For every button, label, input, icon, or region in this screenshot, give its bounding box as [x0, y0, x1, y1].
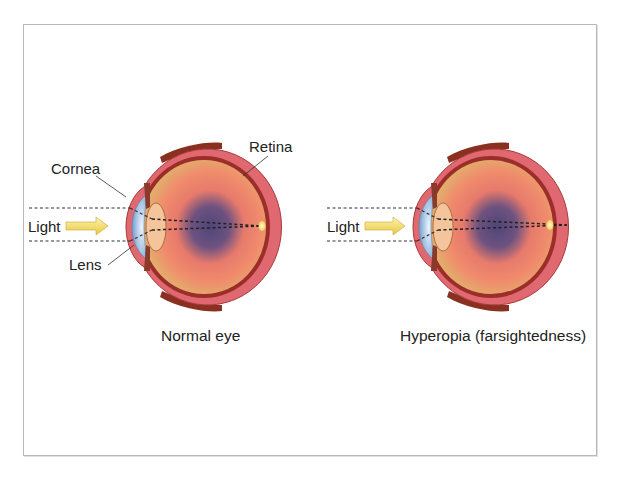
eye-diagram: Light Cornea Lens Retina Normal eye Ligh…: [0, 0, 618, 478]
label-lens: Lens: [69, 256, 102, 273]
label-cornea: Cornea: [51, 160, 101, 177]
light-arrow-icon: [365, 217, 405, 235]
label-light: Light: [28, 218, 61, 235]
focal-point-icon: [259, 221, 266, 231]
caption-hyperopia: Hyperopia (farsightedness): [400, 327, 586, 344]
lens-leader-line: [108, 245, 134, 265]
hyperopia-eye-graphic: [413, 143, 569, 312]
hyperopia-eye-diagram: Light Hyperopia (farsightedness): [327, 143, 586, 344]
normal-eye-graphic: [126, 143, 282, 312]
caption-normal-eye: Normal eye: [161, 327, 240, 344]
cornea-leader-line: [96, 176, 126, 197]
focal-point-icon: [547, 220, 554, 230]
light-arrow-icon: [66, 217, 108, 235]
label-retina: Retina: [249, 138, 293, 155]
label-light: Light: [327, 218, 360, 235]
normal-eye-diagram: Light Cornea Lens Retina Normal eye: [28, 138, 293, 344]
